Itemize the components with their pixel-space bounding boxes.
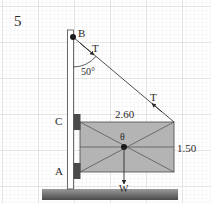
bracket-c: [74, 114, 81, 130]
ground: [42, 189, 178, 200]
label-b: B: [78, 27, 85, 39]
problem-number: 5: [14, 13, 22, 29]
physics-diagram: 5 B T 50° T 2.60 C θ 1.50 A W: [0, 0, 211, 203]
label-t-mid: T: [150, 91, 157, 103]
label-center: θ: [120, 131, 125, 142]
label-c: C: [55, 115, 62, 127]
label-height: 1.50: [177, 142, 197, 154]
label-t-top: T: [92, 42, 99, 54]
bracket-a: [74, 163, 81, 179]
label-weight: W: [119, 183, 129, 194]
pole: [68, 30, 74, 189]
graph-paper-background: [0, 0, 211, 203]
label-a: A: [55, 165, 63, 177]
label-width: 2.60: [115, 108, 135, 120]
point-b: [70, 34, 76, 40]
label-angle: 50°: [81, 66, 95, 77]
